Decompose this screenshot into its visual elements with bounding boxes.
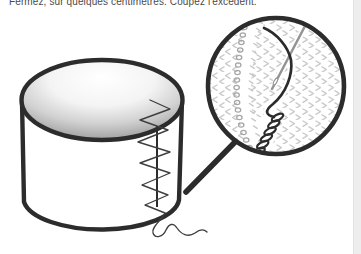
- sewing-illustration: [0, 0, 361, 254]
- scanned-page: Fermez, sur quelques centimètres. Coupez…: [0, 0, 361, 254]
- pouf-cylinder: [22, 60, 208, 237]
- page-edge-shadow: [353, 0, 361, 254]
- magnifier-handle: [186, 141, 236, 192]
- cylinder-top: [22, 60, 183, 140]
- magnifier-callout: [186, 16, 346, 192]
- caption-text: Fermez, sur quelques centimètres. Coupez…: [9, 0, 257, 7]
